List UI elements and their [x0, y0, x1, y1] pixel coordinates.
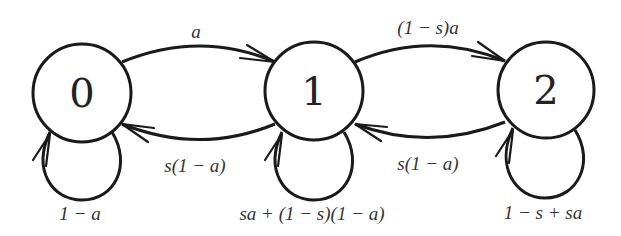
self-loop-1: [275, 132, 352, 200]
edge-label-self-1: sa + (1 − s)(1 − a): [239, 203, 384, 225]
edge-label-self-2: 1 − s + sa: [504, 202, 582, 223]
state-node-1: 1: [265, 42, 363, 140]
edge-label-0-to-1: a: [191, 21, 201, 42]
state-node-0: 0: [33, 44, 131, 142]
state-label-2: 2: [533, 67, 558, 113]
edge-label-1-to-0: s(1 − a): [164, 155, 225, 177]
arrowhead-self-loop-2: [496, 130, 513, 163]
state-node-2: 2: [498, 42, 594, 138]
edge-label-1-to-2: (1 − s)a: [397, 17, 458, 39]
edge-label-2-to-1: s(1 − a): [397, 153, 458, 175]
arrowhead-0-to-1: [240, 45, 275, 62]
edge-1-to-2: [355, 46, 505, 62]
state-label-1: 1: [301, 68, 326, 114]
state-diagram: 0 1 2 a s(1 − a) (1 − s)a s(1 − a) 1 − a…: [0, 0, 621, 236]
edge-2-to-1: [355, 122, 505, 138]
edge-label-self-0: 1 − a: [59, 203, 100, 224]
state-label-0: 0: [69, 70, 94, 116]
